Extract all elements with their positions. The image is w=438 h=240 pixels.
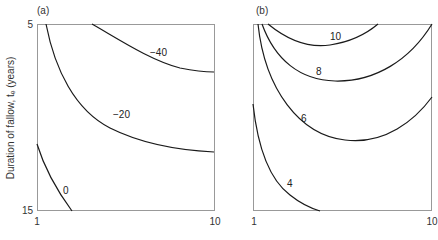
x-tick-max: 10 [209, 216, 221, 227]
contour-label-minus40: −40 [150, 47, 167, 58]
contour-label-10: 10 [330, 31, 342, 42]
contour-10 [268, 24, 378, 46]
panel-b-frame [254, 25, 432, 211]
x-tick-min: 1 [34, 216, 40, 227]
figure: (a) 5 15 1 10 −40 −20 0 Duration of fall… [0, 0, 438, 240]
y-tick-bottom: 15 [22, 205, 34, 216]
contour-label-0: 0 [63, 185, 69, 196]
panel-a-label: (a) [37, 5, 49, 16]
contour-0 [37, 144, 72, 211]
contour-8 [262, 24, 432, 81]
panel-b: (b) 1 10 10 8 6 4 [251, 5, 438, 227]
contour-label-minus20: −20 [113, 109, 130, 120]
contour-label-4: 4 [287, 178, 293, 189]
x-tick-max-b: 10 [426, 216, 438, 227]
contour-label-8: 8 [316, 66, 322, 77]
x-tick-min-b: 1 [251, 216, 257, 227]
y-tick-top: 5 [27, 19, 33, 30]
contour-label-6: 6 [301, 113, 307, 124]
y-axis-label: Duration of fallow, tₑ (years) [5, 57, 16, 180]
panel-a: (a) 5 15 1 10 −40 −20 0 [22, 5, 221, 227]
panel-b-label: (b) [256, 5, 268, 16]
contour-minus20 [46, 24, 214, 152]
contour-4 [253, 104, 320, 211]
